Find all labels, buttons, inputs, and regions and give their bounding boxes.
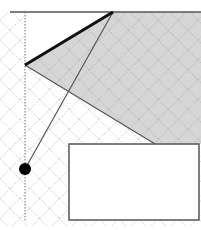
black-point[interactable] bbox=[19, 163, 31, 175]
white-box bbox=[69, 144, 199, 220]
geometry-diagram bbox=[0, 0, 201, 230]
